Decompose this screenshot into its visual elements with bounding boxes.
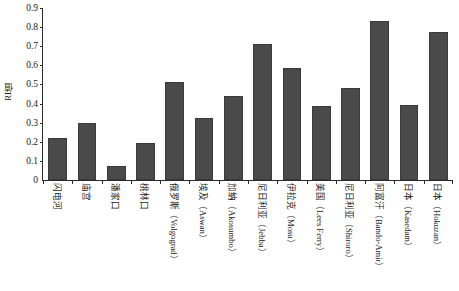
y-axis-tick-mark	[40, 142, 43, 143]
bar-chart: RI值 0.90.80.70.60.50.40.30.20.10 闪电河庙宫潘家…	[0, 0, 459, 291]
x-axis-tick-label: 闪电河	[52, 183, 61, 210]
y-axis-tick-mark	[40, 8, 43, 9]
y-axis-tick-label: 0.9	[14, 3, 38, 13]
bar[interactable]	[78, 123, 97, 180]
bar-slot	[365, 8, 394, 180]
x-axis-tick-mark	[452, 180, 453, 184]
bar-slot	[307, 8, 336, 180]
bar[interactable]	[107, 166, 126, 180]
bar[interactable]	[400, 105, 419, 180]
bar-slot	[43, 8, 72, 180]
y-axis-tick-mark	[40, 65, 43, 66]
y-axis-tick-label: 0.4	[14, 99, 38, 109]
bar[interactable]	[165, 82, 184, 180]
x-axis-tick-label: 埃及（Aswan）	[198, 183, 207, 243]
y-axis-tick-labels: 0.90.80.70.60.50.40.30.20.10	[14, 8, 38, 180]
y-axis-tick-mark	[40, 123, 43, 124]
bar-slot	[160, 8, 189, 180]
x-label-slot: 伊拉克（Mosu）	[276, 183, 305, 289]
x-label-slot: 尼日利亚（Jebba）	[247, 183, 276, 289]
y-axis-tick-label: 0.6	[14, 60, 38, 70]
x-axis-tick-label: 加纳（Akosumbo）	[227, 183, 236, 257]
x-axis-tick-label: 尼日利亚（Shiroro）	[344, 183, 353, 263]
x-axis-tick-label: 尼日利亚（Jebba）	[257, 183, 266, 257]
plot-area	[42, 8, 453, 181]
x-label-slot: 埃及（Aswan）	[188, 183, 217, 289]
bar-slot	[336, 8, 365, 180]
x-label-slot: 尼日利亚（Shiroro）	[335, 183, 364, 289]
bar[interactable]	[312, 106, 331, 180]
bar[interactable]	[341, 88, 360, 180]
x-axis-tick-label: 阿富汗（Bando-Amir）	[374, 183, 383, 271]
x-label-slot: 桃林口	[130, 183, 159, 289]
bar-slot	[248, 8, 277, 180]
bar-slot	[189, 8, 218, 180]
x-axis-tick-label: 伊拉克（Mosu）	[286, 183, 295, 248]
y-axis-tick-label: 0	[14, 175, 38, 185]
x-label-slot: 庙宫	[71, 183, 100, 289]
bar-slot	[424, 8, 453, 180]
x-axis-tick-label: 日本（Hokuzan）	[432, 183, 441, 250]
x-axis-tick-label: 庙宫	[81, 183, 90, 201]
x-label-slot: 潘家口	[101, 183, 130, 289]
x-axis-tick-label: 美国（Lees Ferry）	[315, 183, 324, 256]
y-axis-tick-mark	[40, 84, 43, 85]
y-axis-tick-mark	[40, 161, 43, 162]
bar[interactable]	[253, 44, 272, 180]
bar[interactable]	[429, 32, 448, 180]
bar[interactable]	[136, 143, 155, 180]
bar-slot	[131, 8, 160, 180]
y-axis-title: RI值	[1, 62, 15, 122]
bar[interactable]	[48, 138, 67, 180]
x-label-slot: 日本（Kasedam）	[393, 183, 422, 289]
y-axis-tick-mark	[40, 104, 43, 105]
y-axis-tick-label: 0.8	[14, 22, 38, 32]
bar[interactable]	[283, 68, 302, 180]
bar-series	[43, 8, 453, 180]
bar-slot	[277, 8, 306, 180]
bar-slot	[102, 8, 131, 180]
x-axis-tick-labels: 闪电河庙宫潘家口桃林口俄罗斯（Volgograd）埃及（Aswan）加纳（Ako…	[42, 183, 452, 289]
x-axis-tick-label: 日本（Kasedam）	[403, 183, 412, 251]
bar-slot	[219, 8, 248, 180]
bar[interactable]	[224, 96, 243, 180]
x-label-slot: 阿富汗（Bando-Amir）	[364, 183, 393, 289]
x-axis-tick-label: 俄罗斯（Volgograd）	[169, 183, 178, 264]
y-axis-tick-label: 0.5	[14, 79, 38, 89]
y-axis-tick-label: 0.7	[14, 41, 38, 51]
x-label-slot: 闪电河	[42, 183, 71, 289]
x-label-slot: 日本（Hokuzan）	[423, 183, 452, 289]
x-axis-tick-label: 潘家口	[110, 183, 119, 210]
bar-slot	[394, 8, 423, 180]
x-label-slot: 加纳（Akosumbo）	[218, 183, 247, 289]
x-label-slot: 俄罗斯（Volgograd）	[159, 183, 188, 289]
bar-slot	[72, 8, 101, 180]
y-axis-tick-mark	[40, 46, 43, 47]
bar[interactable]	[370, 21, 389, 180]
y-axis-tick-label: 0.3	[14, 118, 38, 128]
x-axis-tick-label: 桃林口	[139, 183, 148, 210]
y-axis-tick-label: 0.2	[14, 137, 38, 147]
bar[interactable]	[195, 118, 214, 180]
y-axis-tick-mark	[40, 27, 43, 28]
x-label-slot: 美国（Lees Ferry）	[306, 183, 335, 289]
y-axis-tick-label: 0.1	[14, 156, 38, 166]
